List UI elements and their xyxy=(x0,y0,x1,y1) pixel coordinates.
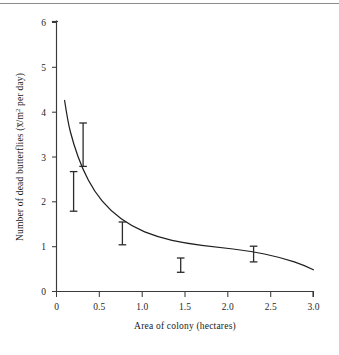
x-tick-label-2-0: 2.0 xyxy=(222,302,234,312)
x-tick-label-1-5: 1.5 xyxy=(179,302,191,312)
chart-plot: 0 1 2 3 4 5 6 0 0.5 1.0 1.5 2.0 2.5 3.0 xyxy=(0,0,339,355)
y-axis-title: Number of dead butterflies (x̅/m2 per da… xyxy=(14,73,26,241)
axis-spines xyxy=(53,21,314,297)
errorbar-point-1 xyxy=(70,172,78,212)
y-tick-label-2: 2 xyxy=(41,197,46,207)
errorbar-point-2 xyxy=(79,123,87,166)
decay-curve xyxy=(65,101,314,270)
figure-container: 0 1 2 3 4 5 6 0 0.5 1.0 1.5 2.0 2.5 3.0 xyxy=(0,0,339,355)
y-tick-label-3: 3 xyxy=(41,153,46,163)
y-tick-label-1: 1 xyxy=(41,242,46,252)
x-axis-title: Area of colony (hectares) xyxy=(134,321,236,332)
svg-text:Number of dead butterflies (x̅: Number of dead butterflies (x̅/m2 per da… xyxy=(14,73,26,241)
x-tick-label-2-5: 2.5 xyxy=(265,302,277,312)
x-tick-label-0: 0 xyxy=(54,302,59,312)
x-tick-label-3-0: 3.0 xyxy=(308,302,320,312)
y-tick-label-6: 6 xyxy=(41,18,46,28)
y-tick-label-0: 0 xyxy=(41,287,46,297)
errorbar-point-3 xyxy=(119,222,127,245)
errorbar-point-5 xyxy=(250,246,258,262)
errorbar-point-4 xyxy=(177,258,185,272)
x-tick-label-0-5: 0.5 xyxy=(93,302,105,312)
x-tick-marks xyxy=(57,292,314,297)
y-axis-title-suffix: per day) xyxy=(15,73,26,109)
y-axis-title-prefix: Number of dead butterflies ( xyxy=(15,127,26,241)
y-tick-label-4: 4 xyxy=(41,108,46,118)
y-tick-labels: 0 1 2 3 4 5 6 xyxy=(41,18,46,297)
y-tick-label-5: 5 xyxy=(41,63,46,73)
errorbar-group xyxy=(70,123,258,272)
x-tick-labels: 0 0.5 1.0 1.5 2.0 2.5 3.0 xyxy=(54,302,320,312)
y-axis-title-per-area: /m xyxy=(15,112,25,123)
x-tick-label-1-0: 1.0 xyxy=(136,302,148,312)
